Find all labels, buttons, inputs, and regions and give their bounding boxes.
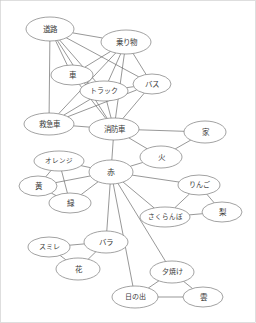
graph-edge <box>108 54 120 81</box>
graph-node[interactable]: トラック <box>80 81 128 101</box>
graph-edge <box>175 140 191 149</box>
node-ellipse <box>89 160 133 184</box>
node-layer: 道路乗り物車トラックバス救急車消防車家火オレンジ赤黄緑りんご梨さくらんぼスミレバ… <box>19 17 242 308</box>
graph-node[interactable]: 家 <box>184 121 226 143</box>
node-ellipse <box>140 207 190 227</box>
graph-edge <box>189 214 202 215</box>
graph-edge <box>207 194 214 203</box>
graph-edge <box>74 126 90 127</box>
node-ellipse <box>133 74 171 94</box>
graph-edge <box>81 182 98 195</box>
graph-canvas: 道路乗り物車トラックバス救急車消防車家火オレンジ赤黄緑りんご梨さくらんぼスミレバ… <box>0 0 256 323</box>
graph-edge <box>129 138 147 149</box>
graph-edge <box>62 171 68 193</box>
graph-edge <box>51 193 56 195</box>
node-ellipse <box>140 146 182 168</box>
node-ellipse <box>51 65 93 85</box>
graph-edge <box>46 170 51 176</box>
node-ellipse <box>89 118 139 140</box>
graph-edge <box>107 184 110 231</box>
node-ellipse <box>183 287 223 307</box>
graph-node[interactable]: 花 <box>56 258 100 280</box>
graph-edge <box>88 252 96 259</box>
graph-edge <box>56 176 90 183</box>
graph-node[interactable]: 赤 <box>89 160 133 184</box>
graph-edge <box>73 33 103 38</box>
graph-node[interactable]: オレンジ <box>34 151 84 171</box>
node-ellipse <box>101 30 151 54</box>
graph-edge <box>112 140 113 160</box>
semantic-network-graph: 道路乗り物車トラックバス救急車消防車家火オレンジ赤黄緑りんご梨さくらんぼスミレバ… <box>0 0 256 323</box>
graph-node[interactable]: 消防車 <box>89 118 139 140</box>
graph-node[interactable]: 雲 <box>183 287 223 307</box>
node-ellipse <box>56 258 100 280</box>
graph-node[interactable]: 救急車 <box>24 113 74 135</box>
node-ellipse <box>26 17 74 41</box>
graph-node[interactable]: 車 <box>51 65 93 85</box>
node-ellipse <box>49 193 91 213</box>
graph-node[interactable]: スミレ <box>28 237 70 257</box>
node-ellipse <box>80 81 128 101</box>
node-ellipse <box>178 175 220 195</box>
graph-edge <box>133 54 146 75</box>
node-ellipse <box>34 151 84 171</box>
graph-edge <box>49 41 50 113</box>
graph-node[interactable]: 火 <box>140 146 182 168</box>
node-ellipse <box>150 261 194 283</box>
graph-edge <box>132 175 179 182</box>
node-ellipse <box>184 121 226 143</box>
node-ellipse <box>24 113 74 135</box>
graph-node[interactable]: 黄 <box>19 176 57 196</box>
graph-node[interactable]: さくらんぼ <box>140 207 190 227</box>
graph-node[interactable]: 梨 <box>202 202 242 222</box>
graph-edge <box>123 93 145 119</box>
graph-node[interactable]: バラ <box>84 231 128 253</box>
graph-edge <box>139 130 184 131</box>
graph-node[interactable]: 緑 <box>49 193 91 213</box>
graph-edge <box>107 101 112 118</box>
graph-edge <box>127 87 134 88</box>
graph-edge <box>60 255 66 259</box>
graph-node[interactable]: 乗り物 <box>101 30 151 54</box>
graph-edge <box>123 182 154 208</box>
graph-node[interactable]: 道路 <box>26 17 74 41</box>
graph-edge <box>81 166 90 168</box>
node-ellipse <box>19 176 57 196</box>
graph-node[interactable]: りんご <box>178 175 220 195</box>
node-ellipse <box>202 202 242 222</box>
graph-edge <box>130 162 143 166</box>
graph-edge <box>70 244 85 245</box>
graph-node[interactable]: 夕焼け <box>150 261 194 283</box>
graph-edge <box>175 194 190 208</box>
node-ellipse <box>84 231 128 253</box>
graph-edge <box>184 281 193 288</box>
node-ellipse <box>28 237 70 257</box>
node-ellipse <box>112 286 158 308</box>
graph-node[interactable]: バス <box>133 74 171 94</box>
graph-node[interactable]: 日の出 <box>112 286 158 308</box>
graph-edge <box>148 281 159 288</box>
